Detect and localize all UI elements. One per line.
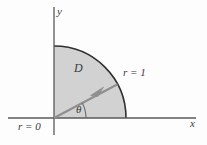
polar-region-figure: y x D r = 1 r = 0 θ: [0, 0, 207, 145]
x-axis-label: x: [190, 118, 195, 129]
outer-radius-label: r = 1: [123, 67, 146, 78]
angle-theta-label: θ: [76, 104, 81, 115]
region-d-fill: [54, 46, 126, 118]
inner-radius-label: r = 0: [18, 121, 41, 132]
y-axis-label: y: [57, 6, 62, 17]
region-label-d: D: [74, 62, 83, 74]
